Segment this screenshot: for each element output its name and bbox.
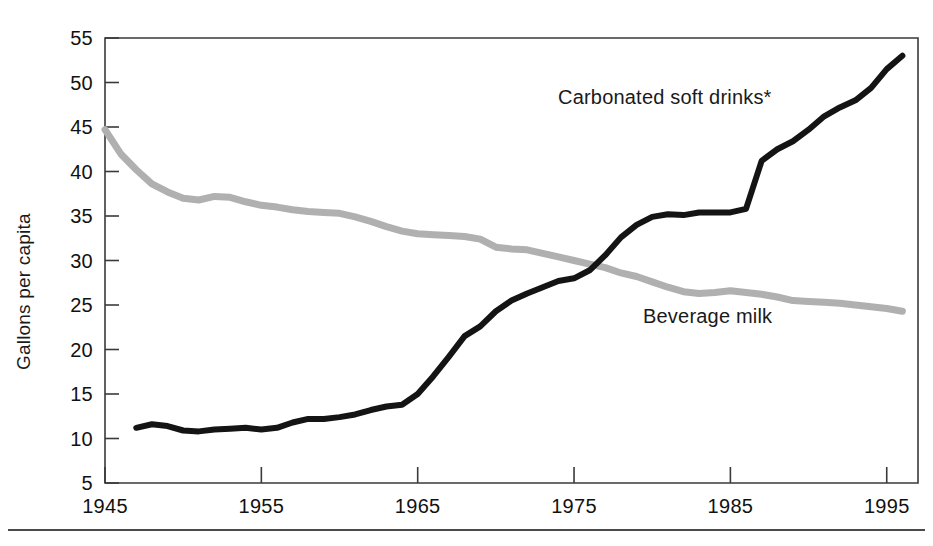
series-line-carbonated-soft-drinks — [136, 56, 902, 432]
x-axis-tick-label-1975: 1975 — [551, 495, 597, 517]
x-axis-tick-label-1955: 1955 — [238, 495, 284, 517]
carbonated-soft-drinks-label: Carbonated soft drinks* — [558, 86, 772, 108]
y-axis-tick-label-10: 10 — [70, 428, 93, 450]
y-axis-tick-label-40: 40 — [70, 161, 93, 183]
y-axis-tick-label-35: 35 — [70, 205, 93, 227]
y-axis-tick-label-30: 30 — [70, 250, 93, 272]
y-axis-tick-label-20: 20 — [70, 339, 93, 361]
x-axis-tick-label-1945: 1945 — [82, 495, 128, 517]
y-axis-tick-label-50: 50 — [70, 72, 93, 94]
x-axis-tick-label-group: 194519551965197519851995 — [82, 495, 909, 517]
y-axis-tick-label-25: 25 — [70, 294, 93, 316]
y-axis-tick-label-45: 45 — [70, 116, 93, 138]
line-chart: 510152025303540455055 194519551965197519… — [0, 0, 933, 546]
y-axis-title: Gallons per capita — [13, 213, 34, 370]
y-axis-tick-label-55: 55 — [70, 27, 93, 49]
chart-figure: 510152025303540455055 194519551965197519… — [0, 0, 933, 546]
x-axis-tick-group — [105, 467, 887, 483]
y-axis-tick-label-group: 510152025303540455055 — [70, 27, 93, 494]
beverage-milk-label: Beverage milk — [643, 305, 773, 327]
plot-frame-border — [105, 38, 918, 483]
x-axis-tick-label-1985: 1985 — [708, 495, 754, 517]
plot-frame — [105, 38, 918, 483]
y-axis-tick-group — [105, 38, 119, 483]
y-axis-tick-label-15: 15 — [70, 383, 93, 405]
series-line-beverage-milk — [105, 130, 902, 312]
data-series-group — [105, 56, 902, 432]
y-axis-tick-label-5: 5 — [82, 472, 93, 494]
x-axis-tick-label-1995: 1995 — [864, 495, 910, 517]
x-axis-tick-label-1965: 1965 — [395, 495, 441, 517]
